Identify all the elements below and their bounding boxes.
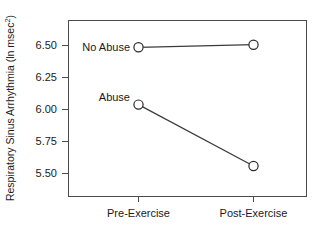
y-tick-label-6-25: 6.25 [36, 71, 57, 83]
data-point-no-abuse-pre-exercise [134, 43, 143, 52]
y-axis-title: Respiratory Sinus Arrhythmia (ln msec2) [3, 15, 16, 201]
y-axis-title-main: Respiratory Sinus Arrhythmia (ln msec [4, 23, 16, 202]
series-abuse-line [139, 105, 254, 166]
series-no-abuse-line [139, 45, 254, 48]
y-tick-label-5-50: 5.50 [36, 167, 57, 179]
x-tick-label-post-exercise: Post-Exercise [220, 207, 288, 219]
line-chart: 6.50 6.25 6.00 5.75 5.50 Pre-Exercise Po… [0, 0, 335, 234]
y-axis-title-suffix: ) [4, 15, 16, 19]
y-tick-label-6-50: 6.50 [36, 39, 57, 51]
series-label-abuse: Abuse [99, 91, 130, 103]
x-tick-label-pre-exercise: Pre-Exercise [107, 207, 170, 219]
y-tick-label-5-75: 5.75 [36, 135, 57, 147]
y-tick-label-6-00: 6.00 [36, 103, 57, 115]
series-no-abuse: No Abuse [82, 40, 258, 53]
chart-figure: 6.50 6.25 6.00 5.75 5.50 Pre-Exercise Po… [0, 0, 335, 234]
data-point-abuse-post-exercise [249, 161, 258, 170]
series-abuse: Abuse [99, 91, 258, 171]
data-point-abuse-pre-exercise [134, 100, 143, 109]
series-label-no-abuse: No Abuse [82, 41, 130, 53]
data-point-no-abuse-post-exercise [249, 40, 258, 49]
